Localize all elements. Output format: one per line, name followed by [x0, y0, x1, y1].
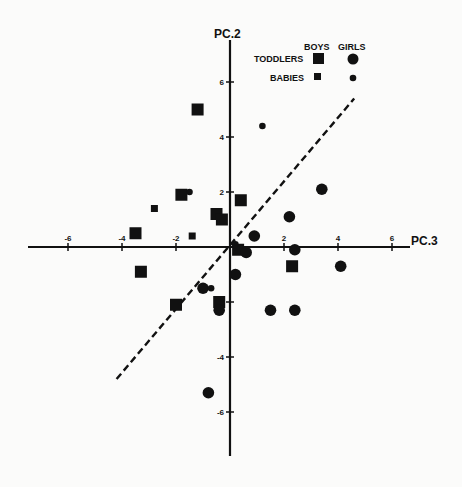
- x-tick-label: 6: [390, 234, 395, 243]
- baby-boy-point: [189, 233, 196, 240]
- scatter-plot: -6-4-2246 642-2-4-6 PC.2 PC.3 BOYS GIRLS…: [0, 0, 462, 487]
- toddler-boy-point: [216, 214, 228, 226]
- trend-line: [117, 99, 355, 380]
- toddler-girl-point: [197, 282, 209, 294]
- toddler-boy-point: [170, 299, 182, 311]
- toddler-boy-point: [130, 227, 142, 239]
- x-axis-label: PC.3: [411, 234, 438, 248]
- legend-toddler-girl-circle: [348, 54, 359, 65]
- toddler-girl-point: [230, 269, 242, 281]
- y-axis-label: PC.2: [214, 27, 241, 41]
- toddler-girl-point: [203, 387, 215, 399]
- toddler-boy-point: [135, 266, 147, 278]
- legend-boys-label: BOYS: [304, 42, 330, 52]
- toddler-girl-point: [265, 304, 277, 316]
- dashed-trend-line: [117, 99, 355, 380]
- baby-boy-point: [151, 205, 158, 212]
- legend-baby-girl-circle: [350, 75, 357, 82]
- y-tick-label: 6: [220, 78, 225, 87]
- toddler-girl-point: [240, 247, 252, 259]
- toddler-girl-point: [289, 304, 301, 316]
- toddler-girl-point: [249, 230, 261, 242]
- legend-girls-label: GIRLS: [338, 42, 366, 52]
- x-tick-label: -2: [172, 234, 180, 243]
- toddler-girl-point: [335, 260, 347, 272]
- toddler-boy-point: [235, 194, 247, 206]
- x-tick-label: -4: [118, 234, 126, 243]
- baby-girl-point: [232, 241, 239, 248]
- y-tick-label: -4: [217, 353, 225, 362]
- y-tick-label: -6: [217, 408, 225, 417]
- toddler-boy-point: [192, 104, 204, 116]
- legend-toddler-boy-square: [313, 53, 324, 64]
- toddler-boy-point: [175, 189, 187, 201]
- toddler-girl-point: [284, 211, 296, 223]
- toddler-girl-point: [289, 244, 301, 256]
- baby-girl-point: [208, 285, 215, 292]
- toddler-girl-point: [213, 304, 225, 316]
- legend: BOYS GIRLS TODDLERS BABIES: [254, 42, 366, 83]
- toddler-boy-point: [286, 260, 298, 272]
- legend-baby-boy-square: [314, 73, 321, 80]
- x-tick-label: 4: [336, 234, 341, 243]
- y-tick-label: 2: [220, 188, 225, 197]
- toddler-girl-point: [316, 183, 328, 195]
- x-tick-label: 2: [282, 234, 287, 243]
- baby-girl-point: [259, 123, 266, 130]
- data-points: [130, 104, 347, 399]
- legend-babies-label: BABIES: [270, 73, 304, 83]
- legend-toddlers-label: TODDLERS: [254, 54, 303, 64]
- x-tick-label: -6: [64, 234, 72, 243]
- baby-girl-point: [186, 189, 193, 196]
- y-tick-label: 4: [220, 133, 225, 142]
